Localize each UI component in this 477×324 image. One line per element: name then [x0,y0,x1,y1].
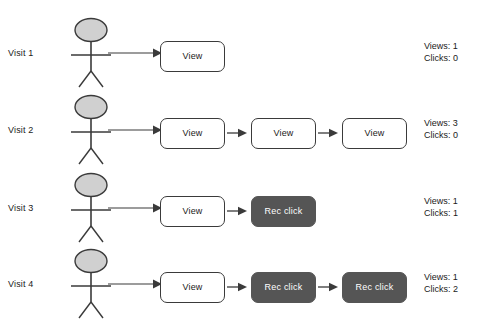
visit-stats: Views: 1Clicks: 2 [424,271,458,295]
step-sequence: View [160,38,225,74]
view-step-box: View [342,118,407,149]
rec-click-step-box: Rec click [251,196,316,227]
step-connector-arrow-icon [316,281,342,293]
views-count: Views: 3 [424,117,458,129]
step-sequence: ViewViewView [160,115,407,151]
clicks-count: Clicks: 1 [424,207,458,219]
step-sequence: ViewRec click [160,193,316,229]
visit-row: Visit 2ViewViewViewViews: 3Clicks: 0 [0,85,477,162]
view-step-box: View [251,118,316,149]
step-connector-arrow-icon [225,127,251,139]
step-connector-arrow-icon [225,205,251,217]
flow-arrow-icon [108,201,164,215]
visit-label: Visit 3 [8,203,60,213]
visit-stats: Views: 1Clicks: 0 [424,40,458,64]
visit-stats: Views: 1Clicks: 1 [424,195,458,219]
visit-label: Visit 2 [8,125,60,135]
visit-stats: Views: 3Clicks: 0 [424,117,458,141]
visit-row: Visit 1ViewViews: 1Clicks: 0 [0,8,477,85]
step-connector-arrow-icon [316,127,342,139]
visit-row: Visit 4ViewRec clickRec clickViews: 1Cli… [0,239,477,316]
view-step-box: View [160,196,225,227]
visit-flow-diagram: Visit 1ViewViews: 1Clicks: 0Visit 2ViewV… [0,0,477,324]
view-step-box: View [160,41,225,72]
views-count: Views: 1 [424,271,458,283]
clicks-count: Clicks: 0 [424,52,458,64]
visit-row: Visit 3ViewRec clickViews: 1Clicks: 1 [0,163,477,240]
flow-arrow-icon [108,123,164,137]
rec-click-step-box: Rec click [342,272,407,303]
clicks-count: Clicks: 0 [424,129,458,141]
clicks-count: Clicks: 2 [424,283,458,295]
step-connector-arrow-icon [225,281,251,293]
flow-arrow-icon [108,46,164,60]
view-step-box: View [160,272,225,303]
visit-label: Visit 1 [8,48,60,58]
view-step-box: View [160,118,225,149]
views-count: Views: 1 [424,40,458,52]
visit-label: Visit 4 [8,279,60,289]
step-sequence: ViewRec clickRec click [160,269,407,305]
views-count: Views: 1 [424,195,458,207]
flow-arrow-icon [108,277,164,291]
rec-click-step-box: Rec click [251,272,316,303]
